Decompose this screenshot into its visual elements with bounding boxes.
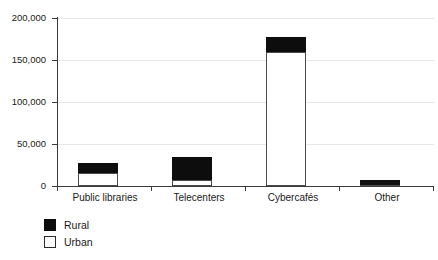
y-tick-label-0: 0 <box>41 181 46 191</box>
legend-item-urban: Urban <box>44 233 93 250</box>
bar-segment-rural-telecenters <box>172 157 212 180</box>
legend-label-urban: Urban <box>64 236 93 248</box>
bar-segment-urban-public-libraries <box>78 173 118 186</box>
x-tick-mark-3 <box>339 186 340 191</box>
legend-swatch-rural-icon <box>44 219 56 231</box>
x-tick-mark-end <box>433 186 434 191</box>
y-tick-mark-150000 <box>52 60 58 61</box>
legend-swatch-urban-icon <box>44 236 56 248</box>
x-tick-label-public-libraries: Public libraries <box>58 192 152 204</box>
bar-segment-rural-public-libraries <box>78 163 118 173</box>
x-tick-mark-start <box>57 186 58 191</box>
x-tick-label-telecenters: Telecenters <box>152 192 246 204</box>
gridline-200000 <box>58 18 434 19</box>
gridline-50000 <box>58 144 434 145</box>
legend: Rural Urban <box>44 216 93 250</box>
x-tick-mark-1 <box>151 186 152 191</box>
y-tick-label-100000: 100,000 <box>12 97 46 107</box>
plot-area <box>58 18 434 186</box>
y-tick-label-50000: 50,000 <box>17 139 46 149</box>
x-tick-label-cybercafes: Cybercafés <box>246 192 340 204</box>
legend-item-rural: Rural <box>44 216 93 233</box>
bar-segment-urban-cybercafes <box>266 52 306 186</box>
y-tick-label-200000: 200,000 <box>12 13 46 23</box>
y-tick-mark-50000 <box>52 144 58 145</box>
bar-public-libraries <box>78 163 118 186</box>
y-tick-mark-200000 <box>52 18 58 19</box>
bar-telecenters <box>172 157 212 186</box>
stacked-bar-chart: 200,000 150,000 100,000 50,000 0 Public … <box>0 0 438 260</box>
x-tick-label-other: Other <box>340 192 434 204</box>
gridline-100000 <box>58 102 434 103</box>
y-tick-label-150000: 150,000 <box>12 55 46 65</box>
legend-label-rural: Rural <box>64 219 89 231</box>
bar-segment-rural-cybercafes <box>266 37 306 51</box>
x-tick-mark-2 <box>245 186 246 191</box>
y-tick-mark-100000 <box>52 102 58 103</box>
bar-cybercafes <box>266 37 306 186</box>
gridline-150000 <box>58 60 434 61</box>
